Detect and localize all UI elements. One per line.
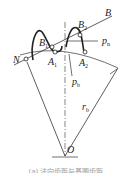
label-O: O: [67, 145, 74, 155]
line-of-action: [14, 16, 112, 65]
label-pb: pb: [72, 77, 80, 88]
label-A2: A2: [79, 58, 88, 69]
diagram-drawing: [0, 0, 132, 173]
figure-caption: (a) 法向齿距与基圆齿距: [0, 166, 132, 173]
label-B: B: [105, 8, 111, 18]
point-A1: [53, 50, 57, 54]
radius-line-left: [27, 62, 65, 156]
gear-pitch-diagram: B B2 B1 pn N A1 A2 pb rb O (a) 法向齿距与基圆齿距: [0, 0, 132, 173]
label-rb: rb: [82, 102, 89, 113]
label-A1: A1: [48, 57, 57, 68]
point-B1: [50, 45, 54, 49]
pb-leader: [69, 54, 72, 76]
label-N: N: [13, 55, 20, 65]
point-N: [24, 57, 28, 61]
label-B2: B2: [78, 20, 87, 31]
label-pn: pn: [102, 36, 110, 47]
base-circle-arc: [20, 51, 118, 68]
label-B1: B1: [39, 38, 48, 49]
point-A2: [83, 50, 87, 54]
point-B2: [78, 33, 82, 37]
